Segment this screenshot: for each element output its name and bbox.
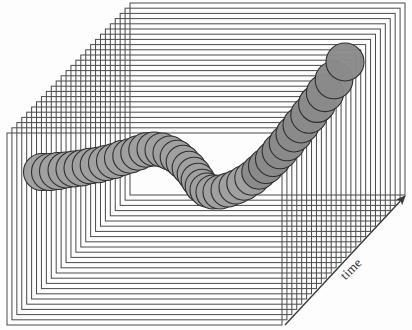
tracked-object-sphere	[326, 43, 364, 81]
volume-trajectory-svg: time	[0, 0, 412, 330]
figure-canvas: time	[0, 0, 412, 330]
